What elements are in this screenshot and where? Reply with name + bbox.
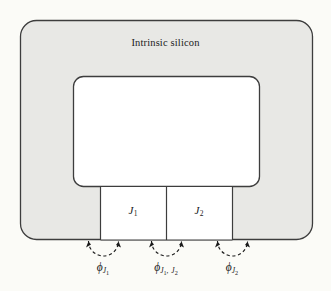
junction-label-j2-base: J [194,204,199,216]
flux-arrowhead-group [86,242,250,248]
junction-label-j2: J2 [166,205,232,218]
flux-label-phi-j1: ϕJ1 [73,262,133,276]
arrowhead-phi-j1j2-left [149,242,154,248]
figure-container: Intrinsic silicon J1 J2 ϕJ1 ϕJ1, J2 ϕJ2 [0,0,331,291]
arrowhead-phi-j1-right [116,242,121,248]
cavity-region [74,77,260,187]
intrinsic-silicon-label: Intrinsic silicon [0,38,331,49]
arc-phi-j1 [89,241,119,256]
flux-label-phi-j1j2: ϕJ1, J2 [135,262,197,276]
arrowhead-phi-j2-right [245,242,250,248]
junction-label-j1-sub: 1 [134,209,138,218]
phi-subscript-index: 1 [106,269,109,276]
phi-subscript: J2 [232,266,238,275]
junction-label-j2-sub: 2 [200,209,204,218]
junction-label-j1-base: J [128,204,133,216]
arc-phi-j1j2 [152,241,182,256]
flux-label-phi-j2: ϕJ2 [202,262,262,276]
phi-subscript: J1 [103,266,109,275]
arrowhead-phi-j1j2-right [179,242,184,248]
phi-subscript-2-index: 2 [175,269,178,276]
phi-subscript-2: J2 [171,266,177,275]
phi-subscript-index: 2 [235,269,238,276]
arc-phi-j2 [218,241,248,256]
flux-arc-group [89,241,248,256]
arrowhead-phi-j1-left [86,242,91,248]
junction-label-j1: J1 [100,205,166,218]
